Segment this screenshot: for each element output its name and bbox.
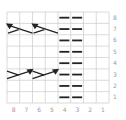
column-label: 5 xyxy=(50,106,54,113)
knitting-chart: 87654321 87654321 xyxy=(0,0,126,120)
column-label: 7 xyxy=(24,106,28,113)
row-label: 8 xyxy=(113,14,117,21)
row-label: 7 xyxy=(113,25,117,32)
column-number-labels: 87654321 xyxy=(12,106,105,113)
column-label: 8 xyxy=(12,106,16,113)
row-label: 5 xyxy=(113,48,117,55)
row-label: 3 xyxy=(113,71,117,78)
row-label: 4 xyxy=(113,59,117,66)
row-label: 2 xyxy=(113,82,117,89)
column-label: 6 xyxy=(37,106,41,113)
row-number-labels: 87654321 xyxy=(113,14,117,101)
column-label: 4 xyxy=(63,106,67,113)
row-label: 6 xyxy=(113,36,117,43)
column-label: 3 xyxy=(75,106,79,113)
chart-grid xyxy=(7,12,109,103)
column-label: 1 xyxy=(101,106,105,113)
row-label: 1 xyxy=(113,93,117,100)
column-label: 2 xyxy=(88,106,92,113)
